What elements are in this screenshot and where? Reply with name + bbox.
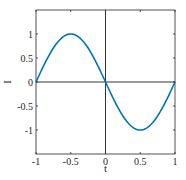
x-axis-label: t bbox=[104, 162, 107, 174]
x-tick-label: -0.5 bbox=[63, 156, 79, 167]
line-chart: -1-0.500.51 -1-0.500.51 t I bbox=[0, 0, 186, 180]
y-tick-label: -0.5 bbox=[17, 101, 33, 112]
y-tick-label: -1 bbox=[25, 125, 33, 136]
y-axis-label: I bbox=[1, 80, 13, 84]
y-tick-label: 1 bbox=[28, 29, 33, 40]
x-tick-label: 1 bbox=[173, 156, 178, 167]
x-tick-label: -1 bbox=[32, 156, 40, 167]
figure: -1-0.500.51 -1-0.500.51 t I bbox=[0, 0, 186, 180]
y-tick-label: 0.5 bbox=[21, 53, 34, 64]
y-tick-label: 0 bbox=[28, 77, 33, 88]
x-tick-label: 0.5 bbox=[134, 156, 147, 167]
x-axis-ticks: -1-0.500.51 bbox=[32, 10, 178, 167]
